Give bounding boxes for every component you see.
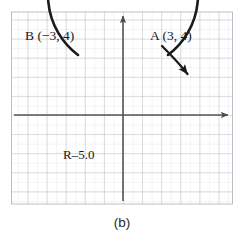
point-a-label: A (3, 4): [150, 29, 192, 43]
figure-container: B (−3, 4) A (3, 4) R–5.0 (b): [0, 0, 244, 244]
point-b-label: B (−3, 4): [25, 29, 74, 43]
figure-caption: (b): [0, 215, 244, 230]
radius-label: R–5.0: [63, 148, 94, 161]
